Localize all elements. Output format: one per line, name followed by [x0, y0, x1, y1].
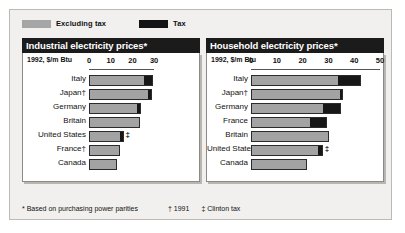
stacked-bar [251, 103, 341, 114]
axis-tick-label: 0 [249, 56, 253, 65]
bar-row-label: Japan† [23, 86, 86, 100]
bar-row-label: Germany [23, 100, 86, 114]
bar-row: Germany [207, 100, 383, 114]
bar-row: Japan† [207, 86, 383, 100]
stacked-bar [89, 117, 140, 128]
bar-row-label: Britain [23, 114, 86, 128]
axis-tick-label: 40 [350, 56, 358, 65]
panel-body-household: 1992, $/m Btu 01020304050 ItalyJapan†Ger… [206, 53, 384, 182]
bar-segment-tax [148, 90, 151, 99]
stacked-bar [89, 159, 117, 170]
axis-tick: 30 [324, 56, 332, 65]
bar-row: France† [23, 142, 199, 156]
legend-item-tax: Tax [139, 19, 186, 28]
bar-row: Britain [23, 114, 199, 128]
stacked-bar [89, 75, 153, 86]
axis-tick: 0 [249, 56, 253, 65]
bar-rows-household: ItalyJapan†GermanyFranceBritainUnited St… [207, 72, 383, 170]
axis-tick: 0 [87, 56, 91, 65]
x-axis-household: 01020304050 [207, 56, 383, 72]
legend-swatch-excluding-tax [22, 20, 51, 28]
bar-row-label: United States [207, 142, 248, 156]
stacked-bar [89, 103, 141, 114]
stacked-bar [89, 145, 120, 156]
stacked-bar [251, 75, 361, 86]
bar-segment-excluding-tax [252, 118, 310, 127]
axis-tick: 10 [273, 56, 281, 65]
bar-segment-excluding-tax [90, 76, 144, 85]
panel-household: Household electricity prices* 1992, $/m … [206, 38, 384, 183]
bar-row-label: France [207, 114, 248, 128]
bar-segment-excluding-tax [252, 90, 340, 99]
bar-row-label: Canada [207, 156, 248, 170]
footnotes: * Based on purchasing power parities † 1… [22, 205, 240, 212]
footnote-double-dagger: ‡ Clinton tax [201, 205, 240, 212]
bar-row-label: France† [23, 142, 86, 156]
bar-row: Japan† [23, 86, 199, 100]
legend-label-excluding-tax: Excluding tax [56, 19, 106, 28]
bar-row: Canada [23, 156, 199, 170]
stacked-bar [251, 131, 329, 142]
bar-row-label: Italy [23, 72, 86, 86]
bar-row: Germany [23, 100, 199, 114]
bar-segment-excluding-tax [252, 160, 306, 169]
bar-segment-excluding-tax [90, 118, 139, 127]
axis-line [89, 69, 154, 70]
bar-segment-tax [318, 146, 322, 155]
bar-footnote-mark: ‡ [126, 128, 130, 142]
bar-segment-excluding-tax [252, 132, 328, 141]
bar-segment-tax [120, 132, 122, 141]
axis-tick-label: 50 [376, 56, 384, 65]
bar-row: United States‡ [23, 128, 199, 142]
stacked-bar [89, 131, 124, 142]
panel-body-industrial: 1992, $/m Btu 0102030 ItalyJapan†Germany… [22, 53, 200, 182]
bar-row: Canada [207, 156, 383, 170]
panel-title-industrial: Industrial electricity prices* [22, 38, 200, 53]
bar-segment-excluding-tax [90, 160, 116, 169]
chart-figure: Excluding tax Tax Industrial electricity… [9, 9, 392, 220]
axis-tick: 20 [128, 56, 136, 65]
bar-row-label: Britain [207, 128, 248, 142]
bar-footnote-mark: ‡ [325, 142, 329, 156]
bar-segment-tax [338, 76, 360, 85]
bar-segment-excluding-tax [252, 76, 338, 85]
axis-tick-label: 10 [107, 56, 115, 65]
bar-row: Italy [23, 72, 199, 86]
axis-tick-label: 20 [298, 56, 306, 65]
legend-label-tax: Tax [173, 19, 186, 28]
bar-row-label: Canada [23, 156, 86, 170]
axis-tick: 10 [107, 56, 115, 65]
bar-segment-excluding-tax [90, 90, 148, 99]
stacked-bar [251, 117, 327, 128]
bar-row: United States‡ [207, 142, 383, 156]
legend-swatch-tax [139, 20, 168, 28]
bar-row-label: Italy [207, 72, 248, 86]
axis-tick-label: 0 [87, 56, 91, 65]
axis-tick: 50 [376, 56, 384, 65]
x-axis-industrial: 0102030 [23, 56, 199, 72]
bar-segment-excluding-tax [90, 104, 137, 113]
bar-segment-tax [137, 104, 140, 113]
footnote-dagger: † 1991 [168, 205, 189, 212]
bar-segment-excluding-tax [90, 132, 120, 141]
stacked-bar [251, 145, 323, 156]
bar-segment-excluding-tax [252, 104, 323, 113]
bar-row: France [207, 114, 383, 128]
axis-tick: 20 [298, 56, 306, 65]
axis-tick-label: 30 [324, 56, 332, 65]
bar-segment-tax [340, 90, 343, 99]
bar-segment-tax [310, 118, 325, 127]
bar-row-label: United States [23, 128, 86, 142]
bar-segment-excluding-tax [90, 146, 119, 155]
bar-segment-excluding-tax [252, 146, 318, 155]
stacked-bar [251, 89, 343, 100]
bar-row-label: Japan† [207, 86, 248, 100]
bar-row: Italy [207, 72, 383, 86]
legend: Excluding tax Tax [22, 19, 186, 28]
bar-row-label: Germany [207, 100, 248, 114]
bar-rows-industrial: ItalyJapan†GermanyBritainUnited States‡F… [23, 72, 199, 170]
axis-line [251, 69, 380, 70]
panel-industrial: Industrial electricity prices* 1992, $/m… [22, 38, 200, 183]
legend-item-excluding-tax: Excluding tax [22, 19, 106, 28]
bar-row: Britain [207, 128, 383, 142]
